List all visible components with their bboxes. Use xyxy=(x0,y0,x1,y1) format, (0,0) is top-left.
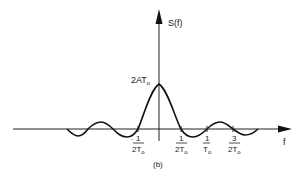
y-axis-label: S(f) xyxy=(168,18,183,28)
x-axis-label: f xyxy=(283,137,286,147)
tick-label-neg-half: - 1 2To xyxy=(131,134,145,155)
svg-text:1: 1 xyxy=(136,134,141,143)
svg-text:To: To xyxy=(203,145,212,155)
figure-caption: (b) xyxy=(153,160,163,169)
svg-text:1: 1 xyxy=(179,134,184,143)
tick-label-one: 1 To xyxy=(203,134,212,155)
svg-text:3: 3 xyxy=(232,134,237,143)
svg-text:2To: 2To xyxy=(175,145,188,155)
svg-text:2To: 2To xyxy=(132,145,145,155)
peak-label: 2ATo xyxy=(131,75,151,86)
svg-text:2To: 2To xyxy=(228,145,241,155)
tick-label-three-half: 3 2To xyxy=(228,134,241,155)
svg-text:1: 1 xyxy=(205,134,210,143)
f-axis-arrowhead-icon xyxy=(278,126,292,133)
svg-text:-: - xyxy=(131,136,133,142)
svg-text:2ATo: 2ATo xyxy=(131,75,151,86)
tick-label-pos-half: 1 2To xyxy=(175,134,188,155)
s-axis-arrowhead-icon xyxy=(156,9,163,24)
sinc-spectrum-diagram: S(f) f 2ATo - 1 2To 1 2To 1 To 3 2To (b) xyxy=(0,0,302,179)
